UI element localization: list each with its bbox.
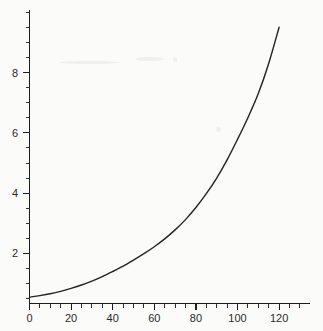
x-tick-label: 120 — [270, 312, 288, 324]
y-axis: 8 6 4 2 — [12, 10, 30, 304]
y-tick-label: 2 — [12, 247, 18, 259]
chart-figure: 8 6 4 2 — [0, 0, 323, 331]
y-tick-label: 6 — [12, 127, 18, 139]
plot-area: 8 6 4 2 — [0, 0, 323, 331]
x-tick-label: 60 — [148, 312, 160, 324]
x-axis: 0 20 40 60 80 100 120 — [26, 304, 310, 325]
x-tick-label: 80 — [190, 312, 202, 324]
x-tick-label: 100 — [228, 312, 246, 324]
data-series-curve — [30, 27, 280, 297]
y-tick-label: 4 — [12, 187, 18, 199]
x-tick-label: 20 — [65, 312, 77, 324]
x-tick-label: 0 — [26, 312, 32, 324]
y-tick-label: 8 — [12, 67, 18, 79]
x-tick-label: 40 — [107, 312, 119, 324]
